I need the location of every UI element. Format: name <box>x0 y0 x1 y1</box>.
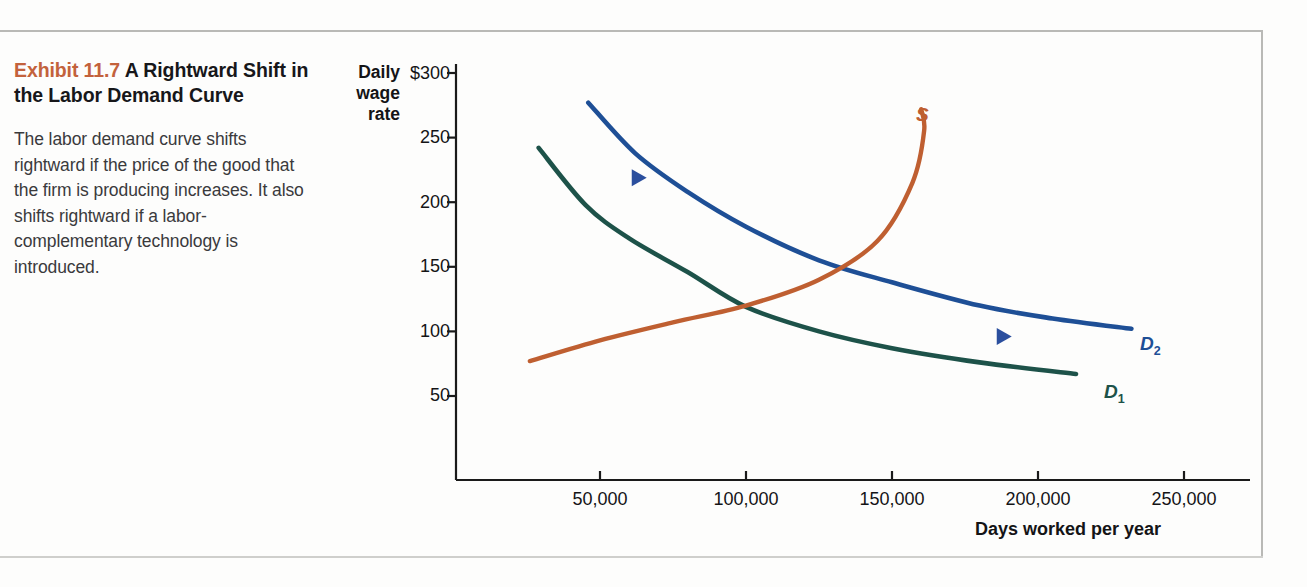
shift-arrow-lower-head <box>997 328 1012 345</box>
figure-container: Exhibit 11.7 A Rightward Shift in the La… <box>0 0 1307 587</box>
curve-demand-2 <box>588 103 1131 329</box>
curve-demand-1 <box>539 148 1076 374</box>
chart-svg-canvas <box>0 0 1307 587</box>
axis-tick-marks <box>447 73 1184 480</box>
shift-arrows <box>565 169 1012 345</box>
shift-arrow-upper-head <box>632 169 647 186</box>
curve-supply <box>530 109 925 361</box>
chart-plot-area: Daily wage rate Days worked per year $30… <box>0 0 1307 587</box>
